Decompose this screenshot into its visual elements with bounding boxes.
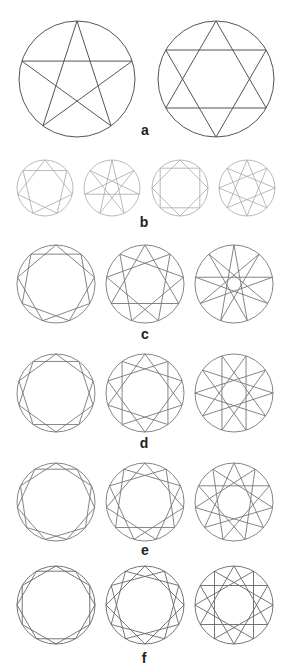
row-label-a: a [141,122,149,138]
figure-row-f [17,566,273,644]
enneagram-9-4 [195,245,273,323]
row-label-c: c [141,326,149,342]
star-polygon-stroke [22,21,132,126]
figure-row-e [17,463,273,541]
circumscribed-circle [17,566,95,644]
figure-row-c [17,245,273,323]
row-label-b: b [140,214,149,230]
circumscribed-circle [106,463,184,541]
star-polygon-stroke [195,356,266,430]
star-polygon-stroke [19,354,93,425]
enneagram-9-2 [17,245,95,323]
star-polygon-stroke [215,571,274,639]
heptagram-7-2 [17,160,73,216]
heptagram-7-3 [84,160,140,216]
dodecagram-12-4 [195,566,273,644]
star-polygon-stroke [108,354,182,432]
hendecagram-11-3 [106,463,184,541]
hexagram [158,21,274,137]
hendecagram-11-4 [195,463,273,541]
star-polygon-stroke [111,245,179,304]
star-polygon-stroke [200,586,268,645]
circumscribed-circle [17,354,95,432]
row-label-d: d [140,435,149,451]
dodecagram-12-3 [106,566,184,644]
star-polygon-stroke [166,50,266,137]
circumscribed-circle [195,354,273,432]
star-polygon-stroke [111,571,179,639]
circumscribed-circle [195,245,273,323]
figure-row-a [19,21,274,137]
circumscribed-circle [17,463,95,541]
figure-row-b [17,160,275,216]
circumscribed-circle [195,463,273,541]
star-polygon-stroke [195,571,254,639]
star-polygon-stroke [19,361,93,432]
pentagram [19,21,135,137]
circumscribed-circle [84,160,140,216]
circumscribed-circle [106,354,184,432]
circumscribed-circle [195,566,273,644]
octagram-8-3 [219,160,275,216]
enneagram-9-3 [106,245,184,323]
decagram-10-2 [17,354,95,432]
circumscribed-circle [106,245,184,323]
star-polygon-stroke [219,160,275,216]
octagram-8-2 [152,160,208,216]
hendecagram-11-2 [17,463,95,541]
dodecagram-12-2 [17,566,95,644]
star-polygon-stroke [202,356,273,430]
decagram-10-3 [106,354,184,432]
star-polygon-stroke [111,571,179,639]
circumscribed-circle [158,21,274,137]
circumscribed-circle [19,21,135,137]
circumscribed-circle [17,245,95,323]
decagram-10-4 [195,354,273,432]
row-label-e: e [141,542,149,558]
star-polygon-stroke [166,21,266,108]
circumscribed-circle [106,566,184,644]
figure-row-d [17,354,273,432]
row-label-f: f [142,650,147,666]
star-polygon-stroke [200,566,268,625]
